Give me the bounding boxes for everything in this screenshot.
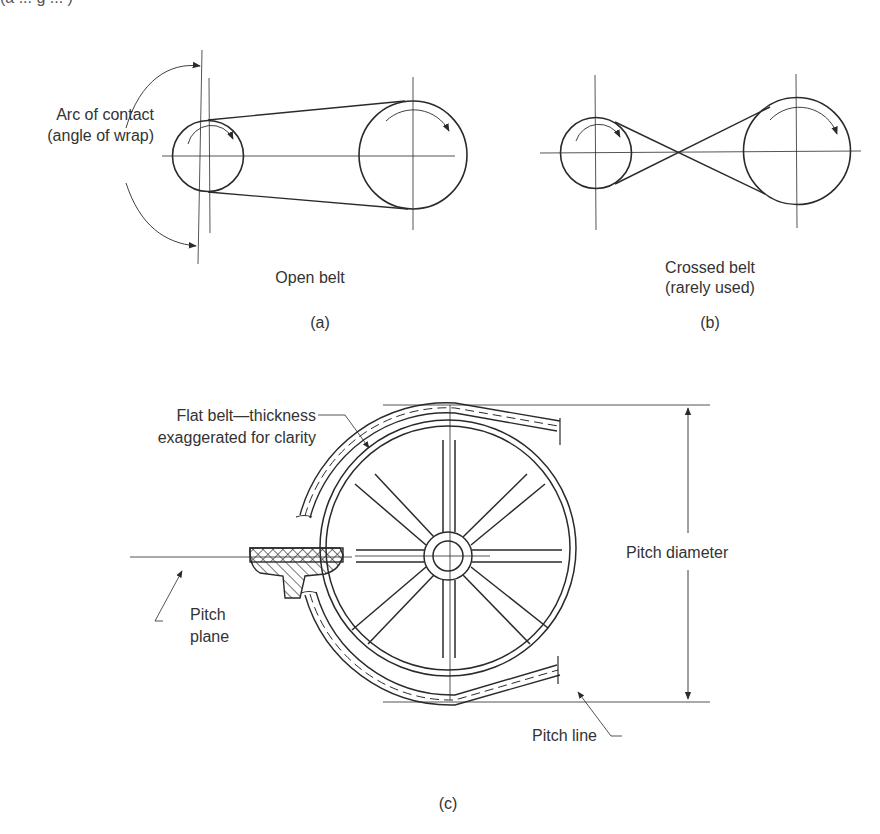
open-belt-caption: Open belt [260, 268, 360, 288]
crossed-belt-drawing [540, 74, 861, 230]
crossed-belt-line1: Crossed belt [640, 258, 780, 278]
flat-belt-line2: exaggerated for clarity [60, 427, 316, 449]
pitch-plane-line2: plane [190, 626, 229, 648]
panel-b-tag: (b) [690, 313, 730, 333]
pitch-plane-line1: Pitch [190, 604, 229, 626]
arc-of-contact-line2: (angle of wrap) [18, 125, 154, 146]
pitch-plane-label: Pitch plane [190, 604, 229, 648]
open-belt-drawing [126, 50, 467, 264]
pitch-line-label: Pitch line [532, 726, 597, 746]
panel-c-tag: (c) [428, 794, 468, 814]
pitch-diameter-label: Pitch diameter [626, 543, 728, 563]
arc-of-contact-line1: Arc of contact [18, 104, 154, 125]
crossed-belt-caption: Crossed belt (rarely used) [640, 258, 780, 298]
arc-of-contact-label: Arc of contact (angle of wrap) [18, 104, 154, 146]
flat-belt-line1: Flat belt—thickness [60, 405, 316, 427]
crossed-belt-line2: (rarely used) [640, 278, 780, 298]
flat-belt-pulley-drawing [130, 403, 710, 736]
flat-belt-label: Flat belt—thickness exaggerated for clar… [60, 405, 316, 449]
panel-a-tag: (a) [300, 313, 340, 333]
header-fragment: (a ... g ... ) [0, 0, 73, 8]
